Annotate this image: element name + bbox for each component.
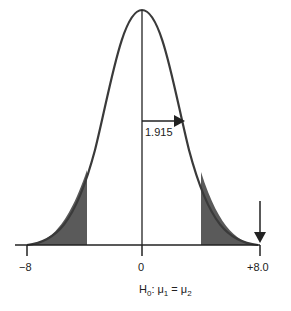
tick-label-0: 0 xyxy=(138,261,144,273)
tick-label-pos8: +8.0 xyxy=(247,261,269,273)
critical-value-label: 1.915 xyxy=(145,126,173,138)
left-tail-region xyxy=(27,170,87,245)
tick-label-neg8: −8 xyxy=(19,261,32,273)
down-arrow-icon xyxy=(254,232,266,243)
hypothesis-caption: H0: μ1 = μ2 xyxy=(139,283,192,298)
